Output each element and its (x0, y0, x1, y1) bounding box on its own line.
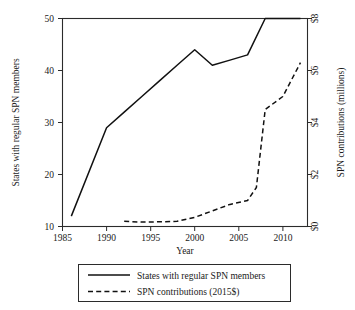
left-axis-tick-labels: 10 20 30 40 50 (45, 14, 55, 232)
right-tick-label: $6 (310, 66, 320, 76)
line-chart: 10 20 30 40 50 States with regular SPN m… (0, 0, 355, 310)
x-tick-label: 1995 (141, 233, 160, 243)
series-line-states (71, 19, 300, 217)
series-line-contributions (124, 63, 300, 222)
x-tick-label: 1985 (53, 233, 72, 243)
x-tick-label: 2010 (273, 233, 292, 243)
left-tick-label: 20 (45, 170, 55, 180)
right-tick-label: $2 (310, 170, 320, 180)
right-tick-label: $8 (310, 14, 320, 24)
left-tick-label: 30 (45, 118, 55, 128)
x-tick-label: 1990 (97, 233, 116, 243)
x-axis-ticks (63, 227, 283, 232)
left-tick-label: 10 (45, 222, 55, 232)
right-axis-tick-labels: $0 $2 $4 $6 $8 (310, 14, 320, 232)
x-axis-title: Year (176, 246, 194, 256)
plot-frame (63, 19, 308, 227)
left-axis-ticks (58, 19, 63, 227)
left-tick-label: 50 (45, 14, 55, 24)
legend: States with regular SPN members SPN cont… (79, 265, 291, 302)
x-tick-label: 2005 (229, 233, 248, 243)
figure-container: 10 20 30 40 50 States with regular SPN m… (0, 0, 355, 310)
right-tick-label: $4 (310, 118, 320, 128)
x-axis-tick-labels: 1985 1990 1995 2000 2005 2010 (53, 233, 293, 243)
legend-label-states: States with regular SPN members (137, 271, 266, 281)
right-tick-label: $0 (310, 222, 320, 232)
y-axis-title: States with regular SPN members (11, 58, 21, 187)
x-tick-label: 2000 (185, 233, 204, 243)
legend-label-contributions: SPN contributions (2015$) (137, 287, 239, 298)
left-tick-label: 40 (45, 66, 55, 76)
y2-axis-title: SPN contributions (millions) (336, 68, 347, 178)
